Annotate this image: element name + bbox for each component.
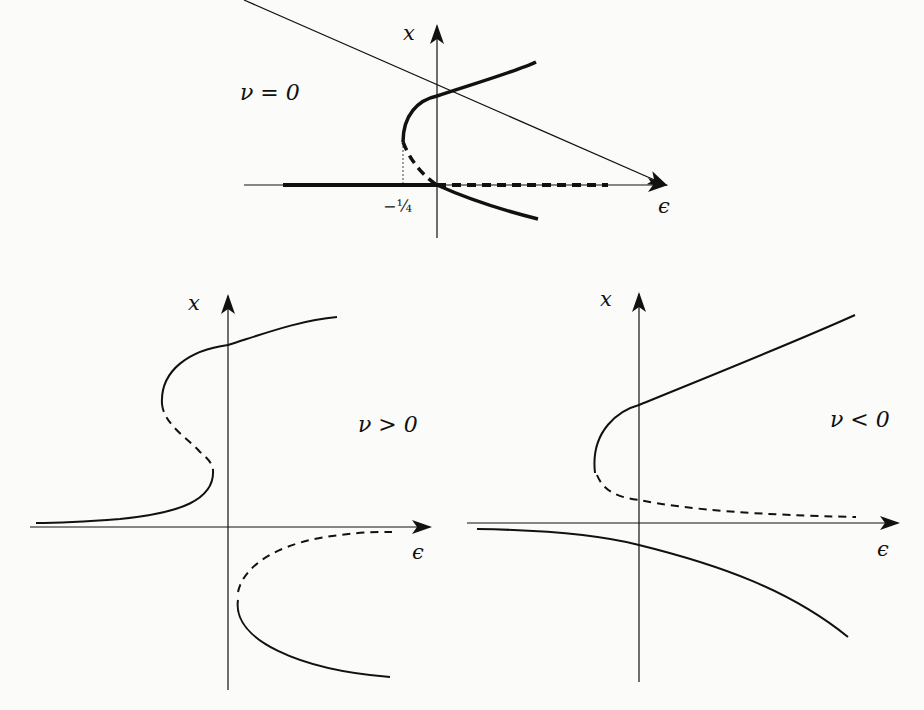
x-axis-top	[244, 0, 666, 185]
panel-label-br: ν < 0	[830, 407, 890, 432]
panel-bottom-right: x ϵ ν < 0	[467, 287, 898, 682]
panel-bottom-left: x ϵ ν > 0	[30, 291, 430, 690]
panel-label-top: ν = 0	[240, 80, 300, 105]
s-curve-top-stable	[162, 317, 337, 404]
x-axis-label-top: ϵ	[658, 194, 670, 218]
x-axis-label-bl: ϵ	[412, 540, 424, 564]
panel-label-bl: ν > 0	[358, 412, 418, 437]
y-axis-label-bl: x	[188, 291, 200, 315]
tick-label-minus-quarter: −¼	[383, 197, 412, 216]
y-axis-label-top: x	[403, 21, 415, 45]
lower-stable-branch	[437, 185, 538, 219]
middle-unstable-branch	[403, 142, 437, 185]
lower-branch-unstable	[238, 532, 392, 592]
x-axis-label-br: ϵ	[877, 537, 889, 561]
y-axis-label-br: x	[600, 287, 612, 311]
fold-upper-stable	[594, 315, 855, 473]
s-curve-bottom-stable	[36, 470, 213, 523]
bifurcation-figure: x ϵ ν = 0 −¼ x ϵ ν > 0 x ϵ ν < 0	[0, 0, 924, 710]
upper-stable-branch	[403, 62, 536, 142]
s-curve-middle-unstable	[162, 404, 213, 470]
fold-lower-unstable	[597, 475, 856, 517]
panel-top: x ϵ ν = 0 −¼	[240, 0, 670, 238]
lower-branch-stable	[238, 600, 390, 677]
lower-branch-br	[477, 529, 848, 637]
